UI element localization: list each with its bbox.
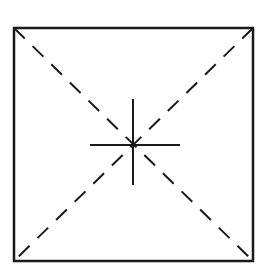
diagram-canvas <box>0 0 267 269</box>
square-diagonals-figure <box>0 0 267 269</box>
